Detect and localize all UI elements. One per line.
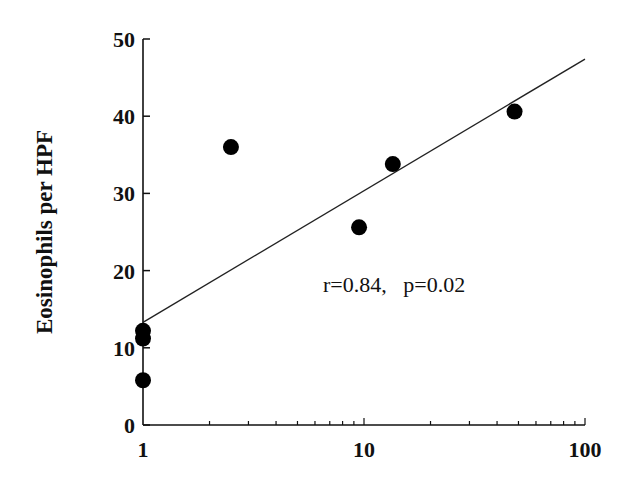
y-tick-label: 20: [113, 259, 135, 284]
x-tick-label: 10: [353, 437, 375, 462]
statistics-annotation: r=0.84, p=0.02: [323, 272, 465, 297]
data-point: [385, 156, 401, 172]
data-point: [135, 331, 151, 347]
y-tick-label: 40: [113, 104, 135, 129]
data-points: [135, 104, 523, 389]
data-point: [135, 372, 151, 388]
y-tick-label: 0: [124, 413, 135, 438]
y-axis-label: Eosinophils per HPF: [32, 130, 57, 334]
data-point: [351, 219, 367, 235]
data-point: [223, 139, 239, 155]
data-point: [507, 104, 523, 120]
y-tick-label: 50: [113, 27, 135, 52]
x-tick-label: 100: [569, 437, 602, 462]
y-tick-label: 30: [113, 181, 135, 206]
y-tick-label: 10: [113, 336, 135, 361]
x-tick-label: 1: [138, 437, 149, 462]
scatter-chart: 01020304050 110100 Eosinophils per HPF r…: [0, 0, 638, 498]
